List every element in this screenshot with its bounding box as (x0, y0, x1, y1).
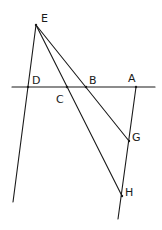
label-E: E (41, 12, 48, 25)
label-B: B (89, 74, 97, 87)
points-group (27, 24, 137, 197)
label-C: C (56, 93, 64, 106)
lines-group (12, 25, 155, 219)
line-A-G-H (118, 87, 136, 219)
point-H (121, 195, 123, 197)
point-A (135, 86, 137, 88)
line-E-D (13, 25, 36, 202)
line-E-B-G (36, 25, 129, 141)
label-G: G (132, 131, 141, 144)
label-H: H (125, 186, 133, 199)
geometry-diagram: EDCBAGH (0, 0, 162, 230)
label-D: D (32, 74, 40, 87)
point-B (85, 86, 87, 88)
point-G (128, 140, 130, 142)
point-D (27, 86, 29, 88)
point-E (35, 24, 37, 26)
line-E-C-H (36, 25, 122, 196)
label-A: A (128, 72, 136, 85)
point-C (66, 86, 68, 88)
